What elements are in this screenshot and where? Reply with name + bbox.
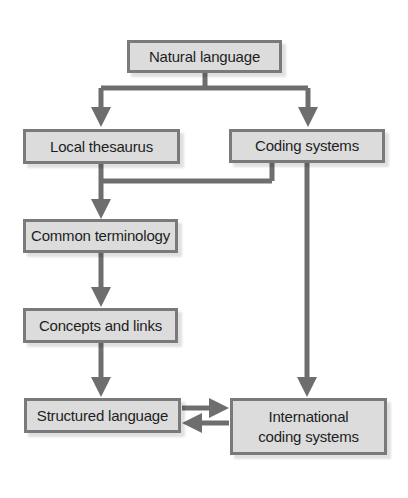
node-concepts-and-links: Concepts and links xyxy=(23,308,178,343)
node-structured-language: Structured language xyxy=(24,398,181,433)
node-international-coding-systems: International coding systems xyxy=(230,398,387,455)
node-coding-systems: Coding systems xyxy=(229,129,385,163)
node-common-terminology: Common terminology xyxy=(23,219,178,253)
node-natural-language: Natural language xyxy=(127,40,282,73)
flowchart-diagram: Natural language Local thesaurus Coding … xyxy=(0,0,408,498)
node-local-thesaurus: Local thesaurus xyxy=(23,129,180,164)
